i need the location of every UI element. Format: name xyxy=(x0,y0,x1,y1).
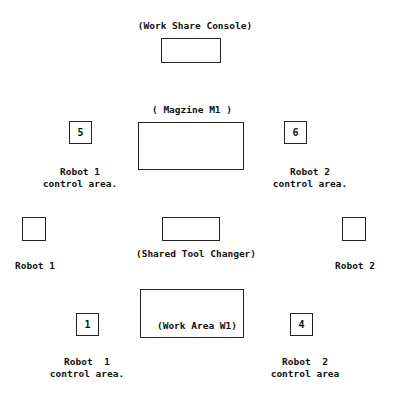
tool-changer-label: (Shared Tool Changer) xyxy=(126,248,266,260)
magazine-label: ( Magzine M1 ) xyxy=(140,104,244,116)
work-area-label: (Work Area W1) xyxy=(150,320,244,332)
shared-tool-changer-box xyxy=(162,217,220,241)
robot2-box xyxy=(342,217,366,241)
robot1-control-area-top-line1: Robot 1 xyxy=(35,166,125,178)
robot1-control-area-bottom-line1: Robot 1 xyxy=(42,356,132,368)
robot1-control-area-bottom-line2: control area. xyxy=(42,368,132,380)
robot2-control-area-bottom-line1: Robot 2 xyxy=(260,356,350,368)
marker-6-box: 6 xyxy=(284,121,307,144)
robot1-box xyxy=(22,217,46,241)
robot1-control-area-top-line2: control area. xyxy=(35,178,125,190)
marker-4-box: 4 xyxy=(290,313,313,336)
console-label: (Work Share Console) xyxy=(125,20,265,32)
marker-1-box: 1 xyxy=(76,313,99,336)
work-share-console-box xyxy=(161,38,221,63)
robot2-control-area-bottom-line2: control area xyxy=(260,368,350,380)
robot1-label: Robot 1 xyxy=(0,260,70,272)
marker-5-box: 5 xyxy=(69,121,92,144)
robot2-label: Robot 2 xyxy=(320,260,390,272)
magazine-m1-box xyxy=(138,122,244,170)
robot2-control-area-top-line2: control area. xyxy=(265,178,355,190)
robot2-control-area-top-line1: Robot 2 xyxy=(265,166,355,178)
